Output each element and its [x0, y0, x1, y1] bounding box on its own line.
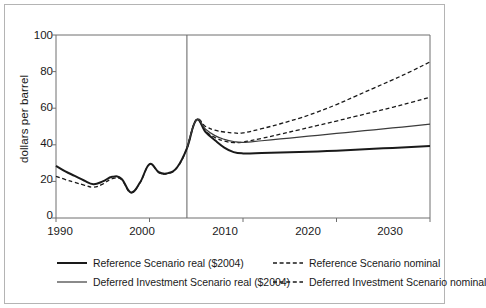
figure-frame: dollars per barrel 100 80 60 40 20 0 199… [4, 4, 445, 304]
legend-swatch-reference-real [57, 258, 87, 268]
legend-item-deferred-nominal: Deferred Investment Scenario nominal [273, 272, 486, 291]
legend-label-deferred-real: Deferred Investment Scenario real ($2004… [93, 276, 290, 288]
legend-item-reference-nominal: Reference Scenario nominal [273, 253, 486, 272]
legend-swatch-reference-nominal [273, 258, 303, 268]
legend: Reference Scenario real ($2004) Deferred… [5, 253, 446, 299]
legend-label-reference-real: Reference Scenario real ($2004) [93, 257, 244, 269]
legend-swatch-deferred-nominal [273, 277, 303, 287]
legend-label-deferred-nominal: Deferred Investment Scenario nominal [309, 276, 486, 288]
legend-item-reference-real: Reference Scenario real ($2004) [57, 253, 290, 272]
plot-area [5, 5, 446, 253]
legend-item-deferred-real: Deferred Investment Scenario real ($2004… [57, 272, 290, 291]
legend-column-left: Reference Scenario real ($2004) Deferred… [57, 253, 290, 291]
legend-column-right: Reference Scenario nominal Deferred Inve… [273, 253, 486, 291]
legend-swatch-deferred-real [57, 277, 87, 287]
legend-label-reference-nominal: Reference Scenario nominal [309, 257, 440, 269]
